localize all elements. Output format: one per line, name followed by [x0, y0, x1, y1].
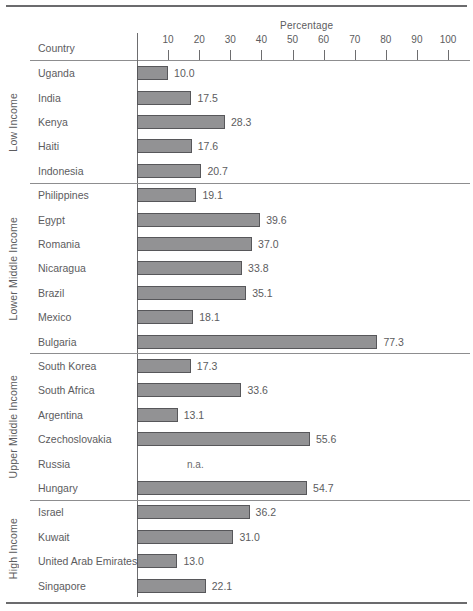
value-bar: [137, 188, 196, 202]
x-tick-label-50: 50: [287, 34, 298, 45]
frame-top-rule: [6, 5, 467, 7]
row-label-country: South Korea: [38, 360, 96, 372]
chart-row: Israel36.2: [0, 500, 473, 524]
x-tick-mark-20: [199, 50, 200, 60]
row-label-country: India: [38, 92, 61, 104]
value-bar: [137, 91, 191, 105]
chart-row: Czechoslovakia55.6: [0, 427, 473, 451]
chart-row: Brazil35.1: [0, 281, 473, 305]
x-axis-title: Percentage: [280, 20, 333, 31]
row-label-country: Argentina: [38, 409, 83, 421]
value-bar: [137, 530, 233, 544]
value-bar: [137, 359, 191, 373]
bar-value-label: 55.6: [316, 433, 336, 445]
x-tick-label-20: 20: [194, 34, 205, 45]
group-label-high-income: High Income: [0, 500, 26, 598]
bar-value-label: 37.0: [258, 238, 278, 250]
x-tick-mark-40: [261, 50, 262, 60]
chart-row: Argentina13.1: [0, 403, 473, 427]
value-bar: [137, 432, 310, 446]
chart-row: Hungary54.7: [0, 476, 473, 500]
bar-value-label: 36.2: [256, 506, 276, 518]
bar-value-label: 39.6: [266, 214, 286, 226]
group-label-text: High Income: [7, 518, 19, 579]
bar-chart: Percentage Country 102030405060708090100…: [0, 0, 473, 611]
bar-value-not-available: n.a.: [187, 458, 204, 469]
chart-row: Indonesia20.7: [0, 159, 473, 183]
chart-row: South Korea17.3: [0, 354, 473, 378]
row-label-country: United Arab Emirates: [38, 555, 137, 567]
x-tick-mark-90: [417, 50, 418, 60]
row-label-country: Bulgaria: [38, 336, 77, 348]
value-bar: [137, 335, 377, 349]
chart-row: Kuwait31.0: [0, 525, 473, 549]
value-bar: [137, 164, 201, 178]
country-column-header: Country: [38, 42, 75, 54]
chart-row: Nicaragua33.8: [0, 256, 473, 280]
value-bar: [137, 408, 178, 422]
row-label-country: Russia: [38, 458, 70, 470]
bar-value-label: 31.0: [239, 531, 259, 543]
row-label-country: Brazil: [38, 287, 64, 299]
bar-value-label: 77.3: [383, 336, 403, 348]
group-label-text: Upper Middle Income: [7, 375, 19, 479]
group-divider-rule: [30, 353, 470, 354]
row-label-country: Nicaragua: [38, 262, 86, 274]
group-label-low-income: Low Income: [0, 61, 26, 183]
x-tick-mark-100: [448, 50, 449, 60]
bar-value-label: 33.8: [248, 262, 268, 274]
row-label-country: Uganda: [38, 67, 75, 79]
row-label-country: Israel: [38, 506, 64, 518]
bar-value-label: 33.6: [247, 384, 267, 396]
row-label-country: Mexico: [38, 311, 71, 323]
row-label-country: Philippines: [38, 189, 89, 201]
bar-value-label: 54.7: [313, 482, 333, 494]
value-bar: [137, 554, 177, 568]
value-bar: [137, 579, 206, 593]
x-tick-label-10: 10: [163, 34, 174, 45]
group-label-lower-middle-income: Lower Middle Income: [0, 183, 26, 354]
row-label-country: Kenya: [38, 116, 68, 128]
value-bar: [137, 237, 252, 251]
row-label-country: Hungary: [38, 482, 78, 494]
value-bar: [137, 481, 307, 495]
chart-row: Singapore22.1: [0, 573, 473, 597]
bar-value-label: 13.0: [183, 555, 203, 567]
x-tick-label-40: 40: [256, 34, 267, 45]
x-tick-label-30: 30: [225, 34, 236, 45]
x-tick-mark-80: [386, 50, 387, 60]
bar-value-label: 20.7: [207, 165, 227, 177]
group-label-upper-middle-income: Upper Middle Income: [0, 354, 26, 500]
row-label-country: South Africa: [38, 384, 95, 396]
x-tick-mark-10: [168, 50, 169, 60]
chart-row: South Africa33.6: [0, 378, 473, 402]
bar-value-label: 13.1: [184, 409, 204, 421]
bar-value-label: 35.1: [252, 287, 272, 299]
row-label-country: Czechoslovakia: [38, 433, 112, 445]
row-label-country: Kuwait: [38, 531, 70, 543]
bar-value-label: 17.3: [197, 360, 217, 372]
value-bar: [137, 310, 193, 324]
group-label-text: Low Income: [7, 93, 19, 152]
bar-value-label: 19.1: [202, 189, 222, 201]
value-bar: [137, 213, 260, 227]
value-bar: [137, 261, 242, 275]
value-bar: [137, 139, 192, 153]
bar-value-label: 18.1: [199, 311, 219, 323]
x-tick-label-70: 70: [349, 34, 360, 45]
bar-value-label: 10.0: [174, 67, 194, 79]
value-bar: [137, 383, 241, 397]
x-tick-label-80: 80: [380, 34, 391, 45]
group-label-text: Lower Middle Income: [7, 217, 19, 321]
chart-row: United Arab Emirates13.0: [0, 549, 473, 573]
chart-row: Philippines19.1: [0, 183, 473, 207]
chart-row: Romania37.0: [0, 232, 473, 256]
value-bar: [137, 286, 246, 300]
frame-bottom-rule: [6, 602, 467, 604]
value-bar: [137, 505, 250, 519]
chart-row: Mexico18.1: [0, 305, 473, 329]
chart-row: Haiti17.6: [0, 134, 473, 158]
chart-row: Bulgaria77.3: [0, 329, 473, 353]
x-tick-mark-30: [230, 50, 231, 60]
row-label-country: Romania: [38, 238, 80, 250]
